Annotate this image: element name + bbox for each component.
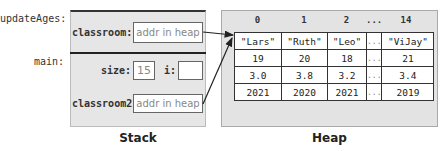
pointer-arrows [0,0,448,151]
arrow-classroom2-to-array [203,38,232,104]
arrow-classroom-to-array [203,32,233,35]
